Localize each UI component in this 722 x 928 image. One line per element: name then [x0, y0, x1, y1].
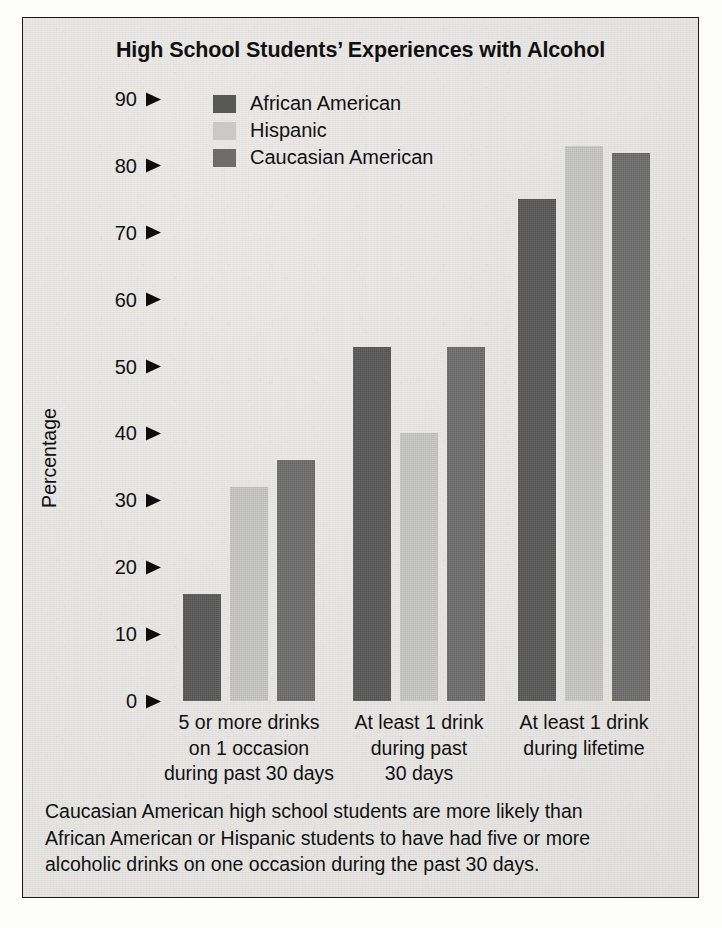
bar-3-2[interactable] [565, 146, 603, 701]
bar-texture [518, 199, 556, 701]
y-axis-tick-label: 40 [115, 422, 137, 445]
y-axis-tick-label: 90 [115, 88, 137, 111]
tick-arrow-icon [146, 560, 161, 574]
y-axis-tick-label: 80 [115, 154, 137, 177]
tick-arrow-icon [146, 493, 161, 507]
bar-1-1[interactable] [183, 594, 221, 701]
bar-group-3 [518, 99, 650, 701]
tick-arrow-icon [146, 293, 161, 307]
bar-texture [183, 594, 221, 701]
y-axis-tick-30: 30 [11, 489, 161, 512]
legend-swatch-icon [213, 95, 236, 113]
bar-texture [230, 487, 268, 701]
bar-group-2 [353, 99, 485, 701]
legend-item-1[interactable]: African American [213, 90, 433, 117]
bar-texture [565, 146, 603, 701]
tick-arrow-icon [146, 92, 161, 106]
bar-3-3[interactable] [612, 153, 650, 701]
tick-arrow-icon [146, 159, 161, 173]
tick-arrow-icon [146, 226, 161, 240]
tick-arrow-icon [146, 360, 161, 374]
bar-texture [277, 460, 315, 701]
bar-texture [400, 433, 438, 701]
y-axis-tick-label: 30 [115, 489, 137, 512]
y-axis-tick-20: 20 [11, 556, 161, 579]
y-axis-tick-label: 0 [126, 690, 137, 713]
bar-2-2[interactable] [400, 433, 438, 701]
tick-arrow-icon [146, 627, 161, 641]
bar-2-3[interactable] [447, 347, 485, 702]
y-axis-tick-0: 0 [11, 690, 161, 713]
bar-3-1[interactable] [518, 199, 556, 701]
legend-label: Caucasian American [250, 146, 433, 169]
legend-swatch-icon [213, 122, 236, 140]
legend-item-2[interactable]: Hispanic [213, 117, 433, 144]
bar-groups [183, 99, 678, 701]
legend-label: Hispanic [250, 119, 327, 142]
y-axis-tick-label: 70 [115, 221, 137, 244]
bar-group-1 [183, 99, 315, 701]
figure-caption: Caucasian American high school students … [45, 798, 682, 878]
y-axis-tick-label: 10 [115, 623, 137, 646]
y-axis-tick-label: 50 [115, 355, 137, 378]
caption-line-3: alcoholic drinks on one occasion during … [45, 851, 682, 878]
legend-item-3[interactable]: Caucasian American [213, 144, 433, 171]
y-axis-tick-90: 90 [11, 88, 161, 111]
bar-1-2[interactable] [230, 487, 268, 701]
tick-arrow-icon [146, 694, 161, 708]
y-axis-tick-label: 20 [115, 556, 137, 579]
chart-legend: African AmericanHispanicCaucasian Americ… [213, 90, 433, 171]
y-axis-tick-60: 60 [11, 288, 161, 311]
bar-2-1[interactable] [353, 347, 391, 702]
caption-line-1: Caucasian American high school students … [45, 798, 682, 825]
y-axis-tick-80: 80 [11, 154, 161, 177]
y-axis-tick-40: 40 [11, 422, 161, 445]
plot-area: 9080706050403020100 [161, 99, 678, 701]
legend-label: African American [250, 92, 401, 115]
chart-figure: High School Students’ Experiences with A… [22, 17, 699, 898]
tick-arrow-icon [146, 426, 161, 440]
bar-texture [353, 347, 391, 702]
y-axis-tick-50: 50 [11, 355, 161, 378]
x-axis-labels: 5 or more drinks on 1 occasion during pa… [183, 710, 683, 790]
bar-texture [612, 153, 650, 701]
y-axis-tick-label: 60 [115, 288, 137, 311]
y-axis-tick-70: 70 [11, 221, 161, 244]
y-axis-tick-10: 10 [11, 623, 161, 646]
legend-swatch-icon [213, 149, 236, 167]
chart-title: High School Students’ Experiences with A… [23, 38, 698, 63]
caption-line-2: African American or Hispanic students to… [45, 825, 682, 852]
bar-1-3[interactable] [277, 460, 315, 701]
x-axis-label-3: At least 1 drink during lifetime [479, 710, 689, 761]
bar-texture [447, 347, 485, 702]
